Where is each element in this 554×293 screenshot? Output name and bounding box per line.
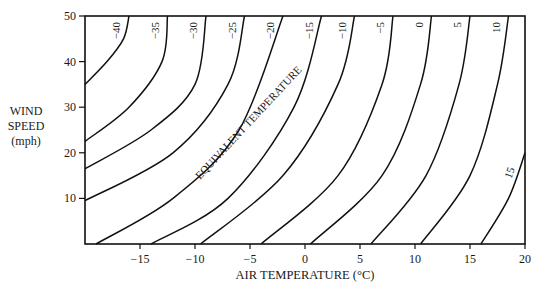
x-tick-label: 10 <box>409 252 421 266</box>
y-tick-label: 30 <box>64 100 76 114</box>
isoline-group <box>85 16 525 244</box>
wind-chill-chart: −40−35−30−25−20−15−10−5051015 −15−10−505… <box>0 0 554 293</box>
equivalent-temperature-annotation: EQUIVALENT TEMPERATURE <box>193 63 304 181</box>
x-tick-label: 5 <box>357 252 363 266</box>
isoline-10 <box>421 16 509 244</box>
x-tick-label: −5 <box>244 252 257 266</box>
isoline-label: −30 <box>187 22 199 40</box>
y-tick-label: 10 <box>64 191 76 205</box>
isoline-label: 15 <box>502 165 517 180</box>
isoline-label: −25 <box>226 22 238 40</box>
y-axis-label: WIND SPEED (mph) <box>2 104 50 149</box>
x-tick-label: 0 <box>302 252 308 266</box>
isoline-labels: −40−35−30−25−20−15−10−5051015 <box>110 22 517 180</box>
y-axis-label-line-1: WIND <box>2 104 50 119</box>
isoline-label: −35 <box>149 22 161 40</box>
y-tick-label: 20 <box>64 146 76 160</box>
isoline-5 <box>371 16 470 244</box>
isoline-label: −20 <box>264 22 276 40</box>
isoline-label: 10 <box>490 22 502 34</box>
isoline-minus-20 <box>96 16 283 244</box>
x-tick-label: 20 <box>519 252 531 266</box>
y-axis-label-line-2: SPEED <box>2 119 50 134</box>
isoline-0 <box>311 16 432 244</box>
isoline-label: −15 <box>303 22 315 40</box>
isoline-minus-25 <box>85 16 245 201</box>
isoline-minus-40 <box>85 16 129 84</box>
isoline-label: 0 <box>413 22 425 28</box>
x-tick-label: −15 <box>131 252 150 266</box>
isoline-label: −10 <box>336 22 348 40</box>
isoline-label: 5 <box>451 22 463 28</box>
x-axis-label: AIR TEMPERATURE (°C) <box>85 268 525 283</box>
isoline-15 <box>481 153 525 244</box>
x-tick-label: 15 <box>464 252 476 266</box>
isoline-label: −40 <box>110 22 122 40</box>
x-axis-ticks: −15−10−505101520 <box>131 244 531 266</box>
y-axis-label-line-3: (mph) <box>2 134 50 149</box>
x-tick-label: −10 <box>186 252 205 266</box>
y-tick-label: 40 <box>64 55 76 69</box>
isoline-minus-10 <box>201 16 355 244</box>
isoline-label: −5 <box>374 22 386 34</box>
y-axis-ticks: 1020304050 <box>64 9 85 205</box>
y-tick-label: 50 <box>64 9 76 23</box>
